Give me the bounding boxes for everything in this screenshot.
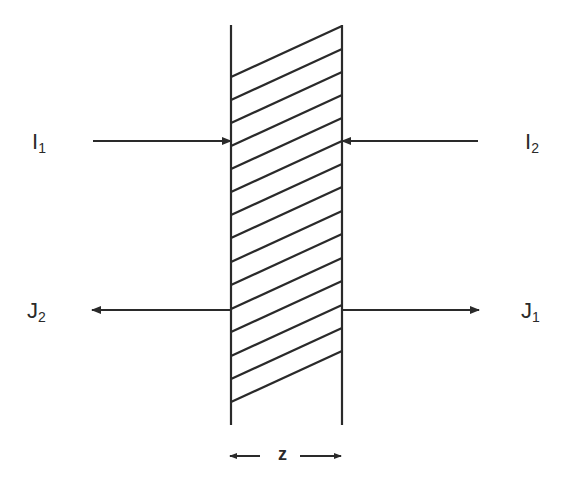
hatch-line (231, 95, 342, 146)
slab (231, 25, 342, 425)
hatch-line (231, 305, 342, 356)
hatch-line (231, 234, 342, 285)
label-j1: J1 (521, 300, 540, 324)
hatch-line (231, 72, 342, 123)
label-thickness-z: z (278, 445, 287, 463)
label-i1: I1 (32, 131, 46, 155)
hatch-line (231, 258, 342, 309)
hatch-line (231, 164, 342, 215)
hatch-line (231, 187, 342, 238)
hatch-line (231, 211, 342, 262)
hatch-line (231, 281, 342, 332)
hatch-line (231, 328, 342, 379)
label-j2: J2 (27, 300, 46, 324)
slab-hatching (231, 26, 342, 402)
hatch-line (231, 141, 342, 192)
slab-flux-diagram (0, 0, 569, 477)
hatch-line (231, 49, 342, 100)
hatch-line (231, 118, 342, 169)
hatch-line (231, 351, 342, 402)
hatch-line (231, 26, 342, 77)
label-i2: I2 (525, 131, 539, 155)
